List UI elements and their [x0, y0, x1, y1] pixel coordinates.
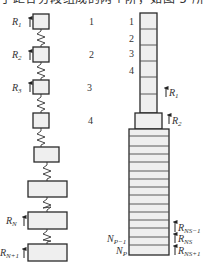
segment-number-4: 4 [129, 65, 134, 76]
block-index-1: 1 [89, 16, 94, 27]
label-r3: R3 [11, 82, 22, 95]
mass-block-7 [28, 212, 67, 229]
label-rn: RN [5, 215, 17, 228]
label-right-r1: R1 [168, 87, 179, 100]
mass-blocks [28, 14, 67, 261]
segment-number-1: 1 [129, 16, 134, 27]
mass-block-8 [28, 244, 67, 261]
spring-3-4 [37, 94, 45, 113]
spring-7-8 [43, 229, 51, 244]
left-spring-mass-model: R1 R2 R3 RN RN+1 1 2 3 4 [0, 14, 94, 261]
mass-block-2 [33, 47, 49, 62]
mass-block-4 [33, 113, 49, 128]
label-rns-plus-1: RNS+1 [177, 245, 201, 258]
block-index-4: 4 [88, 115, 93, 126]
spring-1-2 [37, 29, 45, 47]
mass-block-5 [34, 147, 59, 162]
label-np: NP [115, 245, 128, 258]
spring-6-7 [43, 197, 51, 212]
step-section [135, 113, 162, 129]
segment-number-3: 3 [129, 48, 134, 59]
narrow-column [140, 13, 157, 113]
label-right-r2: R2 [171, 115, 182, 128]
spring-4-5 [37, 128, 45, 147]
mass-block-3 [33, 80, 49, 94]
segment-number-2: 2 [129, 33, 134, 44]
spring-2-3 [37, 62, 45, 80]
label-rn-plus-1: RN+1 [0, 247, 19, 260]
mass-block-6 [28, 181, 67, 197]
label-r2: R2 [11, 49, 22, 62]
block-index-3: 3 [87, 82, 92, 93]
label-r1: R1 [11, 16, 22, 29]
wide-column [129, 129, 169, 255]
block-index-2: 2 [89, 49, 94, 60]
mass-block-1 [33, 14, 49, 29]
right-segmented-model: 1 2 3 4 R1 R2 RNS−1 RNS RNS+1 NP−1 NP [106, 13, 201, 258]
diagram-canvas: R1 R2 R3 RN RN+1 1 2 3 4 [0, 0, 215, 273]
spring-5-6 [43, 162, 51, 181]
